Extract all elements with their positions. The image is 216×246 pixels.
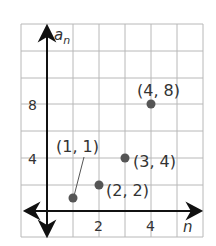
x-axis-label: n [183,218,193,236]
point-4-8 [147,100,156,109]
x-tick-4: 4 [146,218,155,234]
y-tick-4: 4 [28,151,37,167]
y-axis-label: an [54,26,70,47]
grid [21,24,203,237]
label-3-4: (3, 4) [133,152,176,171]
label-2-2: (2, 2) [106,181,149,200]
label-4-8: (4, 8) [137,81,180,100]
p1-leader-line [74,157,84,196]
x-axis [25,204,201,218]
x-tick-2: 2 [94,218,103,234]
y-tick-8: 8 [28,97,37,113]
point-3-4 [121,154,130,163]
label-1-1: (1, 1) [56,137,99,156]
point-1-1 [69,194,78,203]
point-2-2 [95,181,104,190]
chart: an n 2 4 4 8 (1, 1) (2, 2) (3, 4) (4, 8) [0,0,216,246]
